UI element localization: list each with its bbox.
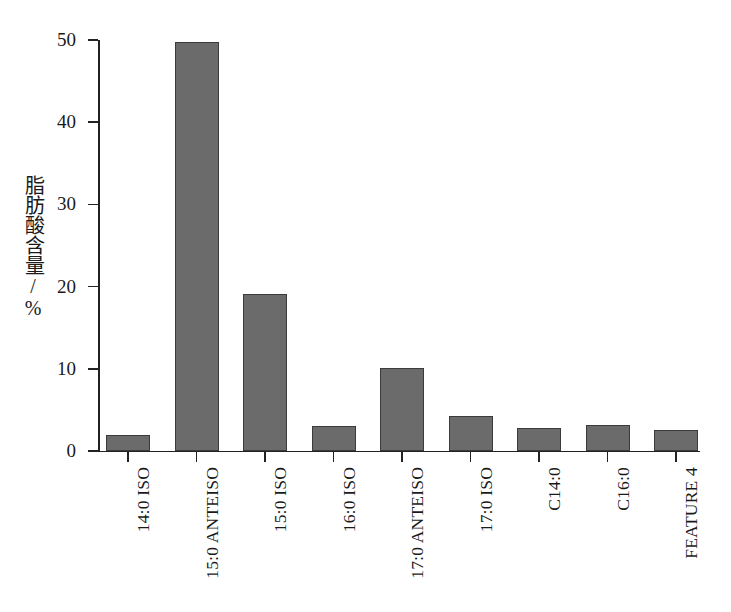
x-tick-3 <box>333 451 335 462</box>
x-axis-label-text: 17:0 ISO <box>478 467 496 532</box>
x-axis-label-text: C16:0 <box>615 467 633 511</box>
fatty-acid-bar-chart: 脂肪酸含量/% 01020304050 14:0 ISO15:0 ANTEISO… <box>0 0 731 612</box>
y-tick-50 <box>88 39 98 41</box>
x-axis-label-0: 14:0 ISO <box>135 402 153 467</box>
x-axis-label-6: C14:0 <box>546 423 564 467</box>
x-tick-4 <box>401 451 403 462</box>
x-axis-label-text: C14:0 <box>546 467 564 511</box>
y-tick-40 <box>88 121 98 123</box>
x-tick-0 <box>127 451 129 462</box>
x-tick-2 <box>264 451 266 462</box>
x-axis-label-2: 15:0 ISO <box>272 402 290 467</box>
y-tick-label-10: 10 <box>32 359 76 378</box>
y-tick-0 <box>88 450 98 452</box>
x-axis-label-text: 15:0 ISO <box>272 467 290 532</box>
x-axis-label-4: 17:0 ANTEISO <box>409 355 427 467</box>
x-tick-5 <box>470 451 472 462</box>
x-tick-8 <box>675 451 677 462</box>
x-axis-label-text: FEATURE 4 <box>683 467 701 559</box>
y-tick-label-50: 50 <box>32 30 76 49</box>
y-tick-30 <box>88 204 98 206</box>
y-tick-label-30: 30 <box>32 194 76 213</box>
x-axis-label-3: 16:0 ISO <box>341 402 359 467</box>
x-tick-6 <box>538 451 540 462</box>
x-axis-label-7: C16:0 <box>615 423 633 467</box>
y-axis-line <box>98 40 100 452</box>
x-tick-7 <box>607 451 609 462</box>
y-tick-20 <box>88 286 98 288</box>
y-tick-label-20: 20 <box>32 277 76 296</box>
y-tick-label-0: 0 <box>32 441 76 460</box>
x-axis-label-text: 16:0 ISO <box>341 467 359 532</box>
x-axis-label-text: 17:0 ANTEISO <box>409 467 427 579</box>
x-axis-label-5: 17:0 ISO <box>478 402 496 467</box>
x-axis-label-1: 15:0 ANTEISO <box>204 355 222 467</box>
x-axis-label-8: FEATURE 4 <box>683 375 701 467</box>
y-tick-10 <box>88 368 98 370</box>
x-axis-label-text: 14:0 ISO <box>135 467 153 532</box>
y-tick-label-40: 40 <box>32 112 76 131</box>
x-tick-1 <box>196 451 198 462</box>
x-axis-label-text: 15:0 ANTEISO <box>204 467 222 579</box>
